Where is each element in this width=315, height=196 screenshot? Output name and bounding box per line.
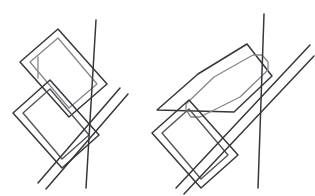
line-drawing-canvas bbox=[0, 0, 315, 196]
canvas-background bbox=[0, 0, 315, 196]
